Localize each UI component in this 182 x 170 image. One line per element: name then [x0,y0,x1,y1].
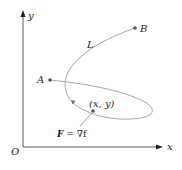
point-B-label: B [139,23,147,34]
x-axis-label: x [167,141,173,152]
field-pointer [80,113,92,126]
y-axis-arrow-icon [21,10,26,17]
field-label: F = ∇f [56,129,87,139]
curve-L-label: L [86,39,94,50]
diagram-canvas: y x O A B L (x, y) F = ∇f [0,0,182,170]
point-xy-label: (x, y) [89,98,115,109]
x-axis-arrow-icon [156,145,163,150]
field-label-grad: = ∇f [63,129,87,139]
point-xy [91,109,95,113]
point-A-label: A [36,74,44,85]
point-A [48,78,52,82]
origin-label: O [11,146,19,157]
y-axis-label: y [27,10,34,21]
point-B [133,26,137,30]
